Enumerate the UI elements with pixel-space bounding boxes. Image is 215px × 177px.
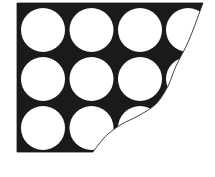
circle-r1-c1 <box>21 8 65 52</box>
figure-canvas <box>0 0 215 177</box>
circle-r1-c2 <box>70 8 114 52</box>
circle-r2-c2 <box>70 57 114 101</box>
circle-r2-c3 <box>118 57 162 101</box>
circle-r1-c3 <box>118 8 162 52</box>
circle-r2-c1 <box>21 57 65 101</box>
circle-r3-c1 <box>21 106 65 150</box>
circle-packing-figure <box>0 0 215 177</box>
